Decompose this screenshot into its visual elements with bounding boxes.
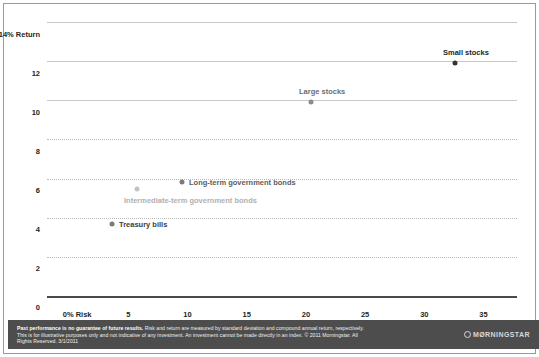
data-point-small-stocks[interactable] — [453, 61, 458, 66]
gridline-14 — [47, 22, 517, 23]
gridline-8 — [47, 139, 517, 140]
disclaimer-line-1-rest: Risk and return are measured by standard… — [143, 325, 364, 331]
x-tick-label-25: 25 — [361, 310, 369, 319]
gridline-2 — [47, 257, 517, 258]
gridline-10 — [47, 100, 517, 101]
x-tick-label-30: 30 — [420, 310, 428, 319]
morningstar-mark-icon — [464, 331, 471, 338]
disclaimer-line-1-bold: Past performance is no guarantee of futu… — [17, 325, 143, 331]
y-tick-label-6: 6 — [36, 186, 40, 195]
disclaimer-footer: Past performance is no guarantee of futu… — [8, 320, 539, 349]
y-tick-label-12: 12 — [32, 69, 40, 78]
data-label-treasury-bills: Treasury bills — [119, 219, 167, 228]
x-tick-label-35: 35 — [479, 310, 487, 319]
x-tick-label-20: 20 — [302, 310, 310, 319]
disclaimer-line-3: Rights Reserved. 3/1/2011 — [17, 338, 533, 345]
y-tick-label-2: 2 — [36, 264, 40, 273]
data-label-long-term-gov-bonds: Long-term government bonds — [189, 177, 296, 186]
data-point-intermediate-term-gov-bonds[interactable] — [134, 187, 139, 192]
y-tick-label-14: 14% Return — [0, 30, 40, 39]
morningstar-logo-text: MØRNINGSTAR — [473, 331, 530, 338]
chart-figure: 14% Return 12 10 8 6 4 2 0 0% Risk 5 10 … — [0, 0, 539, 357]
gridline-12 — [47, 61, 517, 62]
data-label-small-stocks: Small stocks — [443, 48, 489, 57]
plot-area: 14% Return 12 10 8 6 4 2 0 0% Risk 5 10 … — [47, 22, 517, 296]
y-tick-label-8: 8 — [36, 147, 40, 156]
y-tick-label-4: 4 — [36, 225, 40, 234]
disclaimer-line-1: Past performance is no guarantee of futu… — [17, 325, 533, 332]
chart-frame: 14% Return 12 10 8 6 4 2 0 0% Risk 5 10 … — [3, 3, 536, 354]
data-label-intermediate-term-gov-bonds: Intermediate-term government bonds — [124, 196, 257, 205]
x-tick-label-15: 15 — [243, 310, 251, 319]
data-label-large-stocks: Large stocks — [299, 87, 345, 96]
data-point-treasury-bills[interactable] — [109, 221, 114, 226]
x-tick-label-10: 10 — [183, 310, 191, 319]
x-tick-label-5: 5 — [126, 310, 130, 319]
x-tick-label-0: 0% Risk — [63, 310, 92, 319]
gridline-4 — [47, 218, 517, 219]
morningstar-logo: MØRNINGSTAR — [464, 331, 530, 338]
data-point-long-term-gov-bonds[interactable] — [179, 179, 184, 184]
data-point-large-stocks[interactable] — [308, 100, 313, 105]
y-tick-label-10: 10 — [32, 108, 40, 117]
x-axis-line — [47, 296, 517, 298]
disclaimer-line-2: This is for illustrative purposes only a… — [17, 332, 533, 339]
y-tick-label-0: 0 — [36, 303, 40, 312]
